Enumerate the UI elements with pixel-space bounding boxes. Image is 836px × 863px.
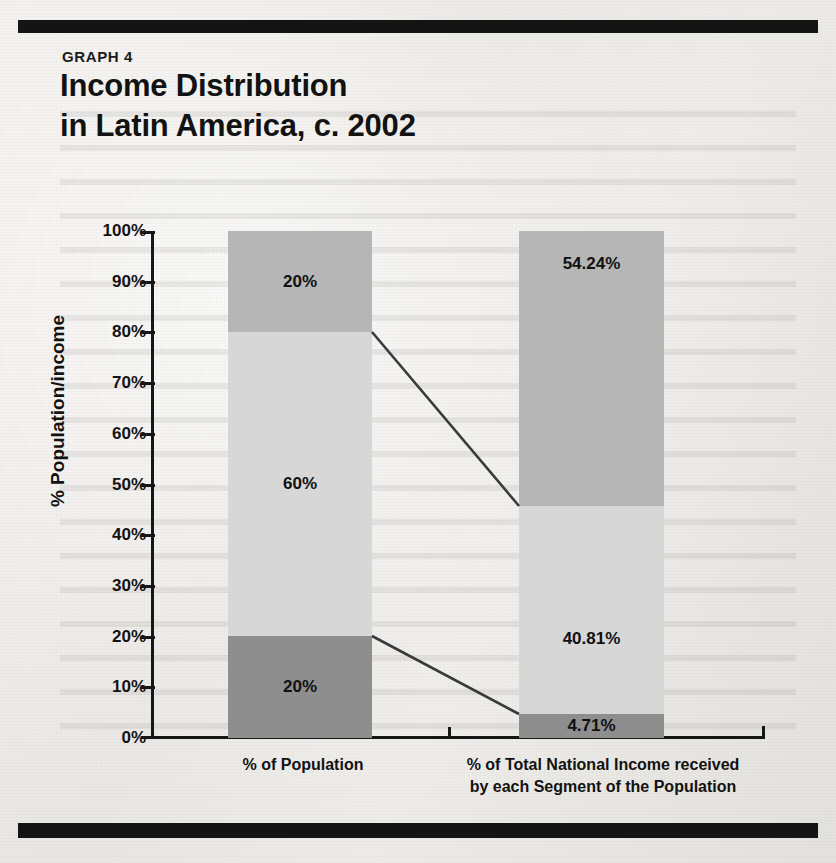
y-axis-tick-label: 60% bbox=[82, 424, 146, 444]
x-axis-middle-tick bbox=[448, 727, 451, 739]
bar-population-label-middle: 60% bbox=[283, 474, 317, 494]
x-axis-left-cap bbox=[151, 726, 154, 739]
bar-national-income-label-middle: 40.81% bbox=[563, 629, 621, 649]
bar-population-segment-middle[interactable]: 60% bbox=[228, 332, 372, 636]
bar-population-label-bottom: 20% bbox=[283, 677, 317, 697]
bar-population-label-top: 20% bbox=[283, 272, 317, 292]
y-axis-tick-mark bbox=[141, 686, 155, 689]
bar-population-segment-top[interactable]: 20% bbox=[228, 231, 372, 332]
bar-national-income[interactable]: 54.24% 40.81% 4.71% bbox=[519, 231, 664, 738]
bar-national-income-segment-bottom[interactable]: 4.71% bbox=[519, 714, 664, 738]
y-axis-tick-labels: 100%90%80%70%60%50%40%30%20%10%0% bbox=[80, 0, 146, 863]
bar-national-income-segment-middle[interactable]: 40.81% bbox=[519, 506, 664, 714]
y-axis-tick-label: 100% bbox=[82, 221, 146, 241]
y-axis-tick-label: 70% bbox=[82, 373, 146, 393]
bar-population-segment-bottom[interactable]: 20% bbox=[228, 636, 372, 738]
x-axis-right-cap bbox=[762, 726, 765, 739]
y-axis-tick-mark bbox=[141, 281, 155, 284]
y-axis-tick-mark bbox=[141, 331, 155, 334]
y-axis-tick-label: 30% bbox=[82, 576, 146, 596]
lower-connector-line bbox=[372, 636, 519, 714]
stacked-bar-chart: % Population/income 100%90%80%70%60%50%4… bbox=[0, 0, 836, 863]
y-axis-tick-label: 80% bbox=[82, 322, 146, 342]
y-axis-title: % Population/income bbox=[47, 261, 69, 561]
bar-national-income-label-top: 54.24% bbox=[563, 254, 621, 274]
y-axis-tick-label: 10% bbox=[82, 677, 146, 697]
y-axis-tick-mark bbox=[141, 433, 155, 436]
y-axis-tick-label: 40% bbox=[82, 525, 146, 545]
x-axis-label-national-income: % of Total National Income received by e… bbox=[438, 754, 768, 798]
y-axis-tick-label: 20% bbox=[82, 627, 146, 647]
y-axis-tick-mark bbox=[141, 534, 155, 537]
y-axis-end-cap bbox=[141, 231, 155, 234]
bar-national-income-label-bottom: 4.71% bbox=[567, 716, 615, 736]
upper-connector-line bbox=[372, 332, 519, 506]
bar-population[interactable]: 20% 60% 20% bbox=[228, 231, 372, 738]
y-axis-tick-mark bbox=[141, 636, 155, 639]
y-axis-tick-label: 50% bbox=[82, 475, 146, 495]
y-axis-tick-label: 90% bbox=[82, 272, 146, 292]
y-axis-tick-mark bbox=[141, 585, 155, 588]
x-axis-label-population: % of Population bbox=[198, 754, 408, 776]
y-axis-tick-mark bbox=[141, 484, 155, 487]
y-axis-tick-mark bbox=[141, 382, 155, 385]
bar-national-income-segment-top[interactable]: 54.24% bbox=[519, 231, 664, 506]
y-axis-tick-label: 0% bbox=[82, 728, 146, 748]
